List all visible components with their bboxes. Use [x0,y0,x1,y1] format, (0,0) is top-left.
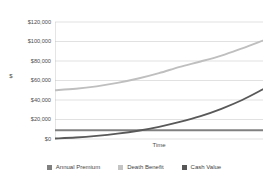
legend-item-label: Cash Value [191,164,222,171]
chart-legend: Annual PremiumDeath BenefitCash Value [0,160,268,174]
y-axis-tick-labels: $120,000$100,000$80,000$60,000$40,000$20… [18,0,51,177]
y-tick-label: $120,000 [18,19,51,26]
line-chart: $ $120,000$100,000$80,000$60,000$40,000$… [0,0,268,177]
legend-swatch-icon [182,165,187,170]
series-lines [55,41,263,139]
y-tick-label: $100,000 [18,38,51,45]
y-tick-label: $80,000 [18,58,51,65]
legend-item[interactable]: Cash Value [182,164,222,171]
series-line [55,41,263,91]
plot-area [55,19,263,142]
y-axis-title: $ [4,73,18,79]
gridlines [55,22,263,139]
y-tick-label: $20,000 [18,116,51,123]
y-tick-label: $40,000 [18,97,51,104]
y-tick-label: $0 [18,136,51,143]
legend-swatch-icon [118,165,123,170]
legend-swatch-icon [47,165,52,170]
y-tick-label: $60,000 [18,77,51,84]
legend-item-label: Death Benefit [127,164,163,171]
legend-item[interactable]: Annual Premium [47,164,100,171]
x-axis-title: Time [55,142,263,148]
legend-item-label: Annual Premium [56,164,100,171]
legend-item[interactable]: Death Benefit [118,164,163,171]
plot-canvas [55,19,263,142]
